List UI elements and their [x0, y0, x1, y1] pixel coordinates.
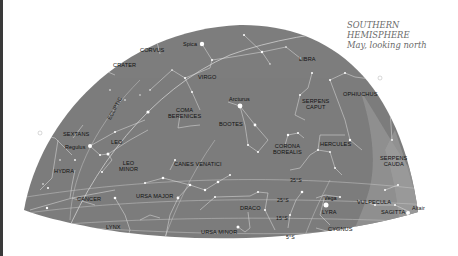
- label-cygnus: CYGNUS: [328, 226, 353, 232]
- label-spica: Spica: [183, 41, 197, 47]
- label-sagitta: SAGITTA: [381, 209, 405, 215]
- label-coma-berenices: COMA BERENICES: [168, 107, 201, 119]
- label-libra: LIBRA: [299, 56, 316, 62]
- label-draco: DRACO: [240, 205, 261, 211]
- title-line-2: HEMISPHERE: [347, 30, 427, 40]
- label-lyra: LYRA: [322, 209, 337, 215]
- label-bootes: BOOTES: [219, 121, 243, 127]
- label-sextans: SEXTANS: [63, 131, 89, 137]
- star-spica: [200, 42, 204, 46]
- label-arcturus: Arcturus: [229, 96, 250, 102]
- label-corvus: CORVUS: [140, 47, 164, 53]
- title-line-1: SOUTHERN: [347, 20, 427, 30]
- label-vulpecula: VULPECULA: [357, 199, 391, 205]
- label-ursa-minor: URSA MINOR: [201, 229, 237, 235]
- label-lat-35: 35°S: [290, 177, 302, 183]
- label-hydra: HYDRA: [54, 168, 74, 174]
- label-hercules: HERCULES: [320, 141, 351, 147]
- label-crater: CRATER: [113, 62, 136, 68]
- label-canes-venatici: CANES VENATICI: [174, 161, 222, 167]
- label-serpens-cauda: SERPENS CAUDA: [380, 155, 407, 167]
- label-lat-25: 25°S: [277, 197, 289, 203]
- label-vega: Vega: [324, 195, 337, 201]
- label-ursa-major: URSA MAJOR: [136, 193, 173, 199]
- label-lat-5: 5°S: [286, 234, 295, 240]
- label-leo-minor: LEO MINOR: [119, 160, 138, 172]
- star-altair: [406, 211, 410, 215]
- chart-title: SOUTHERN HEMISPHERE May, looking north: [347, 20, 427, 51]
- label-ophiuchus: OPHIUCHUS: [343, 91, 377, 97]
- star-arcturus: [238, 104, 243, 109]
- star-regulus: [88, 144, 92, 148]
- label-altair: Altair: [412, 205, 425, 211]
- label-lat-15: 15°S: [276, 215, 288, 221]
- label-leo: LEO: [111, 139, 123, 145]
- label-lynx: LYNX: [106, 224, 121, 230]
- label-cancer: CANCER: [77, 196, 101, 202]
- title-line-3: May, looking north: [347, 40, 427, 50]
- label-corona-borealis: CORONA BOREALIS: [273, 143, 302, 155]
- label-virgo: VIRGO: [198, 74, 217, 80]
- label-serpens-caput: SERPENS CAPUT: [302, 98, 329, 110]
- label-regulus: Regulus: [65, 144, 85, 150]
- star-vega: [324, 203, 329, 208]
